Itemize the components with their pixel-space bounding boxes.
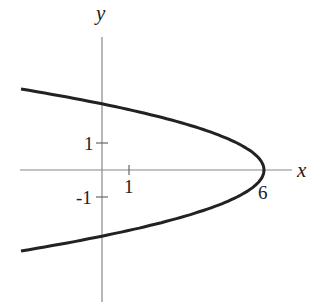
y-axis-label: y — [94, 1, 106, 25]
x-tick-label-6: 6 — [258, 182, 268, 203]
y-tick-label-minus1: -1 — [76, 187, 92, 208]
y-tick-label-1: 1 — [84, 133, 94, 154]
chart: y x 1 6 1 -1 — [0, 0, 321, 305]
parabola-plot: y x 1 6 1 -1 — [0, 0, 321, 305]
x-tick-label-1: 1 — [124, 176, 134, 197]
x-axis-label: x — [296, 158, 307, 182]
